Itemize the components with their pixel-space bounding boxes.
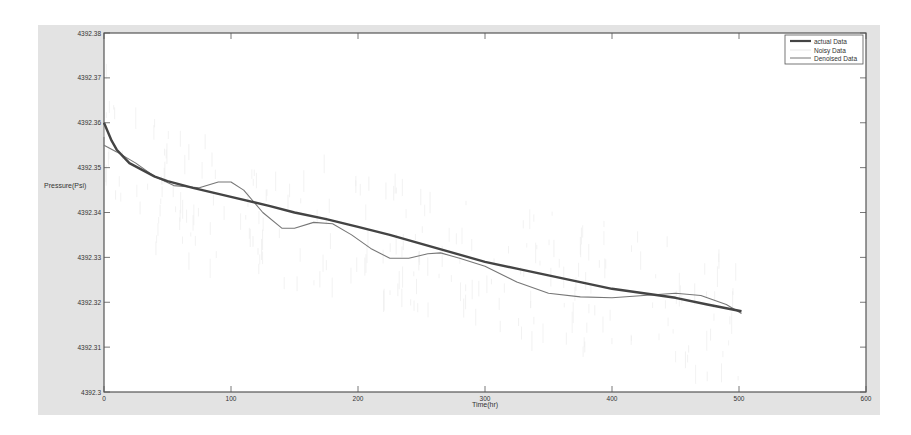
chart-figure: 0100200300400500600 4392.34392.314392.32… [0,0,911,435]
legend: actual Data Noisy Data Denoised Data [785,35,863,64]
line-chart: 0100200300400500600 4392.34392.314392.32… [0,0,911,435]
legend-label-actual: actual Data [814,38,847,45]
y-tick-label: 4392.37 [78,74,102,81]
y-tick-label: 4392.38 [78,30,102,37]
x-tick-label: 400 [607,395,618,402]
legend-label-denoised: Denoised Data [814,55,857,62]
x-tick-label: 200 [353,395,364,402]
x-axis-label: Time(hr) [472,401,498,409]
legend-label-noisy: Noisy Data [814,47,846,55]
y-tick-label: 4392.33 [78,254,102,261]
x-tick-label: 600 [861,395,872,402]
x-tick-label: 0 [102,395,106,402]
plot-area [104,33,866,392]
x-tick-label: 500 [734,395,745,402]
y-tick-label: 4392.3 [81,389,101,396]
y-axis-label: Pressure(Psi) [44,182,86,190]
y-tick-label: 4392.32 [78,299,102,306]
x-tick-label: 100 [226,395,237,402]
y-tick-label: 4392.36 [78,119,102,126]
y-tick-label: 4392.31 [78,344,102,351]
y-tick-label: 4392.34 [78,209,102,216]
y-tick-label: 4392.35 [78,164,102,171]
